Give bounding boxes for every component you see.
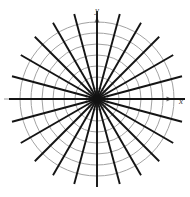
origin-point [93,95,101,103]
y-axis-label: y [94,5,99,15]
polar-grid-canvas: x y [0,0,190,197]
x-axis-label: x [178,96,183,106]
polar-grid-figure: x y [0,0,190,197]
